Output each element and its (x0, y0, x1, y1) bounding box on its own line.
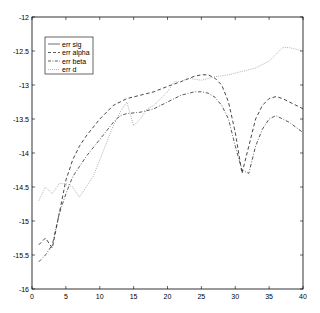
y-tick-label: -13 (19, 82, 29, 89)
x-tick-label: 5 (64, 293, 68, 300)
x-tick-label: 15 (130, 293, 138, 300)
legend-label-err-alpha: err alpha (62, 49, 90, 57)
y-tick-label: -15.5 (13, 252, 29, 259)
legend: err sig err alpha err beta err d (45, 37, 93, 74)
y-tick-label: -12.5 (13, 48, 29, 55)
y-tick-label: -14.5 (13, 184, 29, 191)
y-tick-label: -15 (19, 218, 29, 225)
legend-label-err-sig: err sig (62, 41, 82, 49)
x-tick-label: 20 (164, 293, 172, 300)
y-tick-label: -14 (19, 150, 29, 157)
x-tick-label: 10 (96, 293, 104, 300)
y-tick-label: -16 (19, 286, 29, 293)
legend-label-err-d: err d (62, 66, 77, 73)
x-tick-label: 35 (265, 293, 273, 300)
x-tick-label: 30 (231, 293, 239, 300)
legend-label-err-beta: err beta (62, 58, 86, 65)
x-tick-label: 40 (299, 293, 307, 300)
y-tick-label: -12 (19, 14, 29, 21)
y-tick-label: -13.5 (13, 116, 29, 123)
x-tick-label: 25 (197, 293, 205, 300)
line-chart: 0510152025303540-12-12.5-13-13.5-14-14.5… (0, 0, 320, 313)
x-tick-label: 0 (30, 293, 34, 300)
